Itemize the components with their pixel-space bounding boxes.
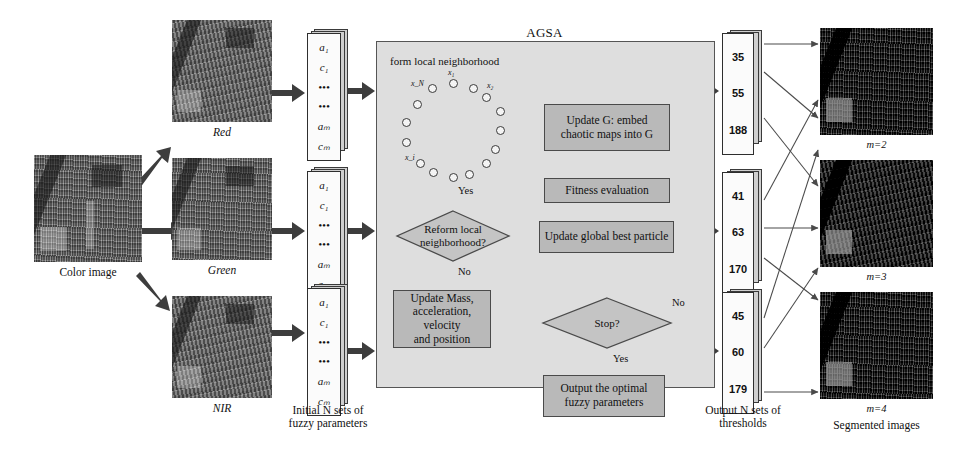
- segmented-image-m4: [820, 292, 933, 399]
- vector-cell: aₘ: [318, 259, 331, 270]
- ring-node: [482, 159, 491, 168]
- vector-cell: •••: [318, 239, 330, 250]
- output-optimal-line1: Output the optimal: [561, 382, 648, 396]
- threshold-value: 45: [732, 311, 744, 322]
- ring-node: [402, 138, 411, 147]
- vector-cell: aₘ: [318, 376, 331, 387]
- vector-cell: c₁: [320, 200, 329, 211]
- vector-cell: •••: [318, 101, 330, 112]
- segmented-image-m2: [820, 28, 933, 135]
- process-box-update-g[interactable]: Update G: embed chaotic maps into G: [544, 104, 670, 151]
- vector-caption-line2: fuzzy parameters: [258, 417, 398, 430]
- threshold-caption-line1: Output N sets of: [676, 404, 810, 417]
- vector-cell: •••: [318, 337, 330, 348]
- process-box-fitness-evaluation[interactable]: Fitness evaluation: [544, 178, 670, 203]
- channel-image-green: [172, 158, 272, 260]
- update-g-line1: Update G: embed: [566, 114, 647, 128]
- process-box-update-global-best[interactable]: Update global best particle: [539, 221, 674, 253]
- threshold-value: 179: [729, 384, 747, 395]
- vector-stack-3: a₁ c₁ ••• ••• aₘ cₘ: [307, 288, 347, 406]
- process-box-update-mass[interactable]: Update Mass, acceleration, velocity and …: [393, 290, 491, 348]
- ring-node: [428, 84, 437, 93]
- process-box-output-optimal[interactable]: Output the optimal fuzzy parameters: [543, 375, 665, 417]
- threshold-value: 188: [729, 125, 747, 136]
- vector-to-agsa-arrows: [347, 82, 375, 360]
- ring-node: [449, 173, 458, 182]
- segmented-image-m3: [820, 160, 933, 267]
- update-global-best-label: Update global best particle: [545, 230, 669, 244]
- ring-node: [429, 168, 438, 177]
- color-image-caption: Color image: [24, 266, 152, 279]
- decision-stop[interactable]: Stop?: [542, 297, 672, 349]
- segmented-label-m3: m=3: [820, 271, 933, 283]
- threshold-stack-3: 45 60 179: [722, 292, 764, 402]
- segmented-label-m4: m=4: [820, 403, 933, 415]
- vector-cell: c₁: [320, 317, 329, 328]
- threshold-stack-1: 35 55 188: [722, 33, 764, 143]
- ring-node: [465, 170, 474, 179]
- segmented-caption: Segmented images: [820, 419, 933, 432]
- vector-cell: aₘ: [318, 121, 331, 132]
- update-mass-line2: acceleration, velocity: [397, 305, 487, 332]
- channel-image-red: [172, 20, 272, 122]
- color-source-image: [34, 155, 142, 262]
- threshold-value: 35: [732, 52, 744, 63]
- channel-label-red: Red: [172, 126, 272, 139]
- neighborhood-label: form local neighborhood: [390, 55, 520, 67]
- ring-node: [496, 126, 505, 135]
- ring-node-label-xN: x_N: [411, 79, 424, 88]
- threshold-value: 55: [732, 88, 744, 99]
- vector-cell: •••: [318, 82, 330, 93]
- fitness-label: Fitness evaluation: [565, 184, 648, 198]
- threshold-to-segmented-lines: [764, 44, 818, 392]
- update-mass-line1: Update Mass,: [410, 292, 473, 306]
- ring-node: [402, 118, 411, 127]
- threshold-stack-2: 41 63 170: [722, 172, 764, 282]
- output-optimal-line2: fuzzy parameters: [565, 396, 644, 410]
- ring-node-label-xi: x_i: [405, 153, 415, 162]
- vector-caption-line1: Initial N sets of: [258, 404, 398, 417]
- threshold-caption: Output N sets of thresholds: [676, 404, 810, 430]
- ring-node: [491, 145, 500, 154]
- decision-reform-local-neighborhood[interactable]: Reform local neighborhood?: [396, 210, 510, 262]
- segmented-label-m2: m=2: [820, 139, 933, 151]
- reform-line2: neighborhood?: [420, 236, 486, 249]
- vector-cell: •••: [318, 220, 330, 231]
- vector-cell: cₘ: [318, 141, 330, 152]
- reform-local-label: Reform local neighborhood?: [396, 210, 510, 262]
- ring-node: [469, 84, 478, 93]
- vector-stack-1: a₁ c₁ ••• ••• aₘ cₘ: [307, 33, 347, 151]
- threshold-value: 41: [732, 191, 744, 202]
- threshold-value: 170: [729, 264, 747, 275]
- reform-line1: Reform local: [424, 223, 482, 236]
- vector-cell: a₁: [319, 297, 328, 308]
- vector-cell: •••: [318, 356, 330, 367]
- channel-label-nir: NIR: [172, 402, 272, 415]
- edge-label-reform-no: No: [458, 266, 471, 277]
- edge-label-reform-yes: Yes: [458, 185, 473, 196]
- threshold-caption-line2: thresholds: [676, 417, 810, 430]
- ring-node: [416, 159, 425, 168]
- vector-cell: a₁: [319, 180, 328, 191]
- agsa-title: AGSA: [376, 25, 713, 41]
- edge-label-stop-no: No: [672, 297, 685, 308]
- threshold-value: 60: [732, 347, 744, 358]
- ring-node: [496, 107, 505, 116]
- vector-stack-2: a₁ c₁ ••• ••• aₘ cₘ: [307, 171, 347, 289]
- stop-line1: Stop?: [594, 317, 619, 330]
- channel-to-vector-arrows: [272, 84, 305, 342]
- update-g-line2: chaotic maps into G: [561, 128, 653, 142]
- stop-label: Stop?: [542, 297, 672, 349]
- ring-node: [482, 93, 491, 102]
- edge-label-stop-yes: Yes: [613, 353, 628, 364]
- vector-cell: a₁: [319, 42, 328, 53]
- threshold-value: 63: [732, 227, 744, 238]
- ring-node: [413, 100, 422, 109]
- channel-label-green: Green: [172, 264, 272, 277]
- ring-node-label-x1: x₁: [448, 68, 454, 77]
- vector-caption: Initial N sets of fuzzy parameters: [258, 404, 398, 430]
- ring-node-label-x2: x₂: [487, 81, 493, 90]
- vector-cell: c₁: [320, 62, 329, 73]
- update-mass-line3: and position: [414, 333, 471, 347]
- ring-node: [449, 79, 458, 88]
